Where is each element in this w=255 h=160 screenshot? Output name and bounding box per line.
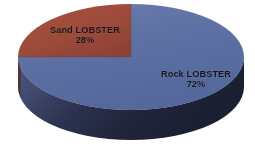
slice-label-sand-lobster: Sand LOBSTER 28% <box>36 25 134 46</box>
slice-label-rock-lobster: Rock LOBSTER 72% <box>144 69 248 90</box>
slice-label-rock-lobster-percent: 72% <box>144 79 248 89</box>
slice-label-rock-lobster-name: Rock LOBSTER <box>144 69 248 79</box>
slice-label-sand-lobster-name: Sand LOBSTER <box>36 25 134 35</box>
pie-chart: Sand LOBSTER 28% Rock LOBSTER 72% <box>0 0 255 160</box>
slice-label-sand-lobster-percent: 28% <box>36 35 134 45</box>
